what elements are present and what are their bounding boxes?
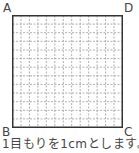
vertex-label-a: A [3, 2, 11, 14]
caption: 1目もりを1cmとします。 [2, 137, 139, 151]
square-grid [12, 15, 123, 128]
vertex-label-d: D [124, 2, 133, 14]
